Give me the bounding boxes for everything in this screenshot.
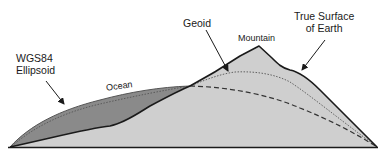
- true-surface-arrow: [302, 40, 325, 70]
- wgs84-label-line1: WGS84: [16, 52, 55, 64]
- wgs84-ellipsoid-label: WGS84 Ellipsoid: [16, 52, 55, 76]
- wgs84-label-line2: Ellipsoid: [16, 64, 55, 76]
- wgs84-arrow: [46, 81, 64, 104]
- mountain-label: Mountain: [238, 32, 275, 44]
- geoid-arrow: [206, 30, 228, 71]
- true-surface-label: True Surface of Earth: [294, 10, 354, 34]
- true-surface-label-line1: True Surface: [294, 10, 354, 22]
- true-surface-label-line2: of Earth: [294, 22, 354, 34]
- geoid-label: Geoid: [183, 17, 211, 29]
